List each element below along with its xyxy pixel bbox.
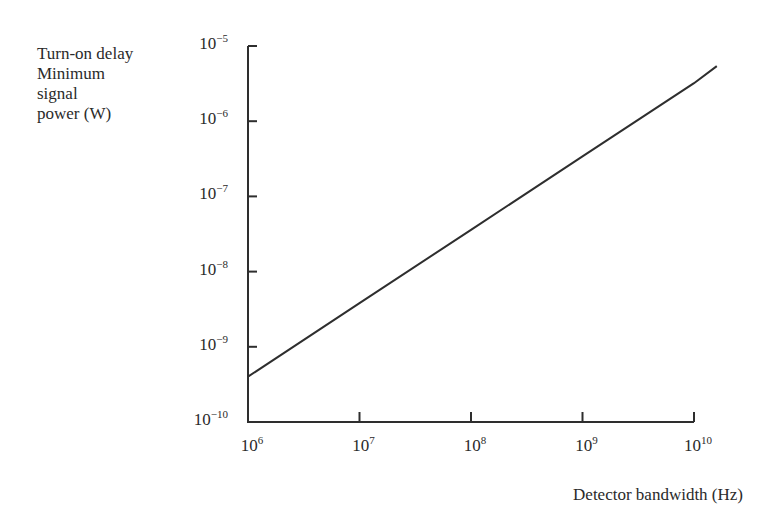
- x-axis-title: Detector bandwidth (Hz): [573, 485, 743, 505]
- series-line: [248, 66, 717, 377]
- plot-area: [0, 0, 763, 528]
- axes: [247, 46, 694, 423]
